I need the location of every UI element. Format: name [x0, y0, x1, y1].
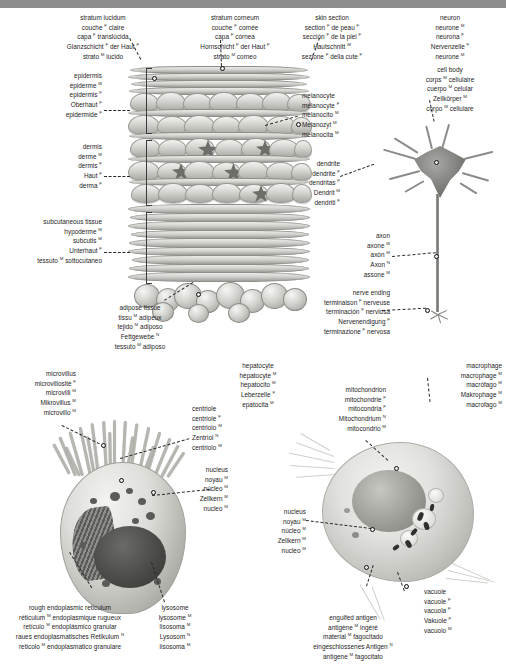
anchor-centriole — [119, 478, 124, 483]
label-mitochondrion: mitochondrion mitochondrie F mitocondria… — [302, 386, 386, 432]
label-melanocyte: melanocyte mélanocyte F melanocito M Mel… — [302, 92, 394, 138]
anchor-microvillus — [101, 443, 106, 448]
label-cell-body: cell body corps M cellulaire cuerpo M ce… — [398, 66, 502, 112]
leader-subcutaneous — [104, 252, 130, 253]
anchor-cell-body — [434, 160, 439, 165]
anchor-adipose — [196, 292, 201, 297]
centriole-organelle — [110, 492, 120, 501]
neuron-nerve-ending — [428, 308, 448, 322]
brace-epidermis — [146, 68, 147, 134]
anchor-stratum-corneum — [220, 66, 225, 71]
anchor-nucleus-macrophage — [370, 527, 375, 532]
anchor-melanocyte — [296, 122, 301, 127]
anchor-stratum-lucidum — [152, 76, 157, 81]
anchor-mitochondrion — [394, 466, 399, 471]
label-lysosome: lysosome lysosome M lisosoma M Lysosom N… — [142, 604, 208, 650]
label-macrophage: macrophage macrophage M macrófago M Makr… — [398, 362, 502, 408]
label-epidermis: epidermis épiderme M epidermis F Oberhau… — [12, 72, 102, 118]
label-dermis: dermis derme M dermis F Haut F derma F — [12, 143, 102, 189]
label-engulfed-antigen: engulfed antigen antigène M ingéré mater… — [288, 614, 418, 660]
label-nucleus-macrophage: nucleus noyau M núcleo M Zellkern M nucl… — [238, 508, 306, 554]
anchor-nerve-ending — [425, 308, 430, 313]
anchor-nucleus-hepatocyte — [151, 490, 156, 495]
label-nucleus-hepatocyte: nucleus noyau M núcleo M Zellkern M nucl… — [160, 466, 228, 512]
hepatocyte-illustration — [46, 418, 198, 614]
anchor-vacuole — [404, 584, 409, 589]
leader-dendrite — [340, 164, 374, 177]
label-rough-endoplasmic-reticulum: rough endoplasmic reticulum réticulum M … — [2, 604, 138, 650]
label-dendrite: dendrite dendrite F dendritas F Dendrit … — [270, 160, 340, 206]
neuron-cell-body — [412, 146, 468, 198]
label-axon: axon axone M axón M Axon N assone M — [322, 232, 390, 278]
label-vacuole: vacuole vacuole F vacuola F Vakuole F va… — [424, 588, 494, 634]
mitochondrion-organelle — [352, 532, 359, 538]
label-adipose-tissue: adipose tissue tissu M adipeux tejido M … — [88, 304, 192, 350]
brace-subcutaneous — [146, 212, 147, 284]
label-centriole: centriole centriole F centriolo M Zentri… — [192, 405, 264, 451]
leader-dermis — [104, 176, 130, 177]
label-subcutaneous-tissue: subcutaneous tissue hypoderme M subcutis… — [2, 218, 102, 264]
brace-dermis — [146, 140, 147, 206]
label-skin-section: skin section section F de peau F sección… — [262, 14, 402, 60]
anchor-axon — [434, 254, 439, 259]
neuron-illustration — [376, 118, 500, 328]
leader-epidermis — [104, 110, 130, 111]
top-strip — [0, 0, 506, 8]
illustration-plate: stratum lucidum couche F claire capa F t… — [0, 0, 506, 664]
label-hepatocyte: hepatocyte hépatocyte M hepatocito M Leb… — [216, 362, 300, 408]
label-microvillus: microvillus microvillosité F microvilli … — [0, 370, 76, 416]
neuron-axon-shaft — [436, 194, 439, 312]
label-neuron: neuron neurone M neurona F Nervenzelle F… — [398, 14, 502, 60]
label-nerve-ending: nerve ending terminaison F nerveuse term… — [282, 289, 390, 335]
anchor-engulfed-antigen — [364, 565, 369, 570]
